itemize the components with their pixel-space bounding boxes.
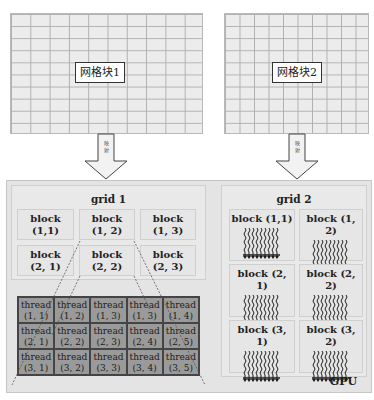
thread-cell: thread(1, 4) [163, 297, 199, 323]
grid2-block-2-2: block (2, 2) [299, 264, 363, 317]
grid-block-1-label: 网格块1 [75, 62, 125, 83]
block-1-2: block (1, 2) [79, 209, 135, 240]
block-label: block (1,1) [230, 213, 294, 225]
thread-cell: thread(3, 3) [90, 349, 126, 375]
thread-cell: thread(1, 3) [127, 297, 163, 323]
block-label: block (3, 2) [300, 324, 362, 348]
block-label: block (2, 1) [230, 268, 294, 292]
down-arrow-icon: 映 射 [84, 133, 130, 181]
block-2-3: block (2, 3) [140, 245, 196, 276]
block-coord: (1,1) [18, 225, 73, 237]
thread-cell: thread(1, 3) [90, 297, 126, 323]
grid-1-title: grid 1 [12, 193, 205, 205]
thread-cell: thread(3, 1) [18, 349, 54, 375]
svg-text:射: 射 [104, 147, 109, 154]
thread-cell: thread(2, 2) [54, 323, 90, 349]
down-arrow-icon: 映 射 [275, 133, 321, 181]
thread-cell: thread(3, 5) [163, 349, 199, 375]
thread-cell: thread(1, 2) [54, 297, 90, 323]
block-name: block [80, 213, 134, 225]
grid-block-2-label: 网格块2 [272, 62, 322, 83]
grid-block-1-diagram: 网格块1 [10, 13, 203, 134]
thread-cell: thread(3, 2) [54, 349, 90, 375]
block-name: block [141, 213, 195, 225]
arrow-1-label: 映 [104, 140, 109, 147]
svg-text:射: 射 [295, 147, 300, 154]
block-1-1: block (1,1) [17, 209, 74, 240]
arrow-2-label: 映 [295, 140, 300, 147]
thread-grid: thread(1, 1) thread(1, 2) thread(1, 3) t… [17, 296, 200, 376]
block-label: block (1, 2) [300, 213, 362, 237]
thread-cell: thread(1, 1) [18, 297, 54, 323]
block-name: block [18, 213, 73, 225]
thread-cell: thread(3, 4) [127, 349, 163, 375]
grid-block-2-diagram: 网格块2 [224, 13, 369, 134]
grid2-block-3-2: block (3, 2) [299, 320, 363, 373]
block-name: block [80, 249, 134, 261]
grid-2-title: grid 2 [222, 193, 366, 205]
block-label: block (2, 2) [300, 268, 362, 292]
block-label: block (3, 1) [230, 324, 294, 348]
threads-wave-icon [311, 350, 351, 383]
thread-cell: thread(2, 3) [90, 323, 126, 349]
grid2-block-1-1: block (1,1) [229, 209, 295, 261]
thread-cell: thread(2, 4) [127, 323, 163, 349]
threads-wave-icon [242, 227, 282, 260]
thread-cell: thread(2, 5) [163, 323, 199, 349]
block-2-2: block (2, 2) [79, 245, 135, 276]
block-coord: (1, 2) [80, 225, 134, 237]
block-coord: (2, 2) [80, 261, 134, 273]
grid2-block-1-2: block (1, 2) [299, 209, 363, 261]
threads-wave-icon [242, 350, 282, 383]
block-name: block [18, 249, 73, 261]
grid2-block-2-1: block (2, 1) [229, 264, 295, 317]
grid2-block-3-1: block (3, 1) [229, 320, 295, 373]
block-1-3: block (1, 3) [140, 209, 196, 240]
block-coord: (2, 3) [141, 261, 195, 273]
block-coord: (2, 1) [18, 261, 73, 273]
block-coord: (1, 3) [141, 225, 195, 237]
block-name: block [141, 249, 195, 261]
block-2-1: block (2, 1) [17, 245, 74, 276]
thread-cell: thread(2, 1) [18, 323, 54, 349]
